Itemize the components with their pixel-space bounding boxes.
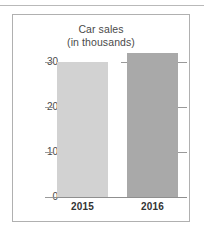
- plot-area: 30 20 10 0 2015 2016: [13, 15, 189, 221]
- y-axis-tickmark-0-left: [45, 197, 53, 198]
- bar-2016: [127, 53, 178, 197]
- y-axis-tickmark-20-right: [177, 107, 187, 108]
- top-divider-rule: [0, 5, 204, 6]
- x-axis-label-2016: 2016: [127, 201, 178, 212]
- y-axis-tickmark-20-left: [45, 107, 53, 108]
- y-axis-tickmark-30-left: [45, 62, 53, 63]
- y-axis-tickmark-10-left: [45, 152, 53, 153]
- y-axis-tickmark-10-right: [177, 152, 187, 153]
- bar-2015: [57, 62, 108, 197]
- x-axis-baseline: [53, 197, 187, 198]
- y-axis-tickmark-30-right: [177, 62, 187, 63]
- chart-container: Car sales (in thousands) 30 20 10 0: [12, 14, 190, 222]
- x-axis-label-2015: 2015: [57, 201, 108, 212]
